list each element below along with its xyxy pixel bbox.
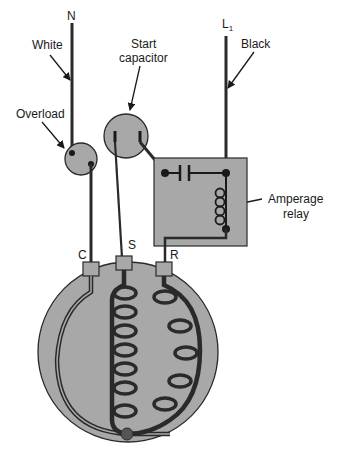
overload-terminal-1 [69,150,75,156]
capacitor-to-s-wire [115,142,122,258]
winding-junction [121,428,133,440]
white-arrow [50,55,70,80]
terminal-r [156,262,172,276]
compressor-motor [38,262,218,442]
terminal-c [83,262,99,276]
start-capacitor-label-1: Start [131,37,157,51]
overload-label: Overload [16,107,65,121]
black-wire-label: Black [241,37,271,51]
terminal-c-label: C [78,248,87,262]
white-wire-label: White [32,38,63,52]
terminal-s [116,256,132,270]
amperage-relay-label-1: Amperage [268,192,324,206]
start-capacitor-label-2: capacitor [119,51,168,65]
wiring-diagram: N L1 White Black Overload Start capacito… [0,0,339,457]
overload-arrow [42,122,64,148]
line-label: L1 [222,17,234,33]
terminal-r-label: R [170,248,179,262]
terminal-s-label: S [128,238,136,252]
black-arrow [228,52,254,88]
amperage-relay-label-2: relay [283,207,309,221]
capacitor-arrow [130,66,140,110]
neutral-label: N [67,9,76,23]
